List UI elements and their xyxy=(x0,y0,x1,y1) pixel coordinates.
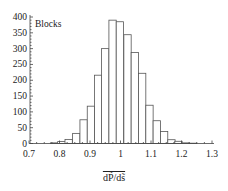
series-label: Blocks xyxy=(35,19,62,29)
histogram-bar xyxy=(80,120,87,144)
histogram-bar xyxy=(146,105,153,143)
histogram-bar xyxy=(109,20,116,143)
x-tick-label: 1 xyxy=(118,149,123,159)
x-tick-label: 0.7 xyxy=(23,149,35,159)
histogram-bar xyxy=(102,49,109,144)
histogram-bar xyxy=(131,52,138,143)
y-tick-label: 200 xyxy=(13,75,28,85)
x-tick-label: 1.2 xyxy=(176,149,188,159)
histogram-bar xyxy=(153,121,160,144)
histogram-bar xyxy=(124,35,131,144)
histogram-bar xyxy=(73,133,80,143)
histogram-bar xyxy=(87,106,94,143)
x-tick-label: 0.8 xyxy=(54,149,66,159)
y-tick-label: 350 xyxy=(13,28,28,38)
histogram-bar xyxy=(160,131,167,143)
histogram-bar xyxy=(95,75,102,143)
histogram-bar xyxy=(116,22,123,144)
y-tick-label: 150 xyxy=(13,91,28,101)
histogram-bar xyxy=(65,139,72,143)
y-tick-label: 50 xyxy=(18,123,28,133)
x-tick-label: 0.9 xyxy=(84,149,96,159)
x-axis-label-text: dP̃/ds̃ xyxy=(103,172,125,183)
x-axis-label: dP̃/ds̃ xyxy=(0,172,228,183)
y-tick-label: 300 xyxy=(13,44,28,54)
x-tick-label: 1.1 xyxy=(145,149,157,159)
y-tick-label: 0 xyxy=(22,139,27,149)
histogram-bars xyxy=(50,20,196,143)
histogram-chart: 050100150200250300350400 0.70.80.911.11.… xyxy=(0,0,228,170)
histogram-bar xyxy=(139,73,146,143)
y-tick-label: 250 xyxy=(13,59,28,69)
x-tick-label: 1.3 xyxy=(206,149,218,159)
y-tick-label: 100 xyxy=(13,107,28,117)
y-tick-label: 400 xyxy=(13,12,28,22)
